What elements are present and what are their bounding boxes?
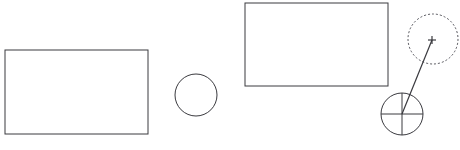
plus-marker[interactable] — [428, 36, 436, 44]
rectangle-left[interactable] — [5, 50, 148, 134]
leader-line[interactable] — [402, 40, 432, 114]
diagram-svg — [0, 0, 460, 150]
circle-middle[interactable] — [175, 74, 217, 116]
diagram-canvas — [0, 0, 460, 150]
rectangle-right[interactable] — [245, 3, 388, 86]
dashed-circle[interactable] — [408, 14, 458, 64]
